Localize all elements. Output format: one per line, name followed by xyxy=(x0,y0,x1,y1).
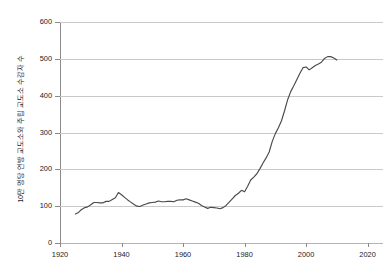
y-tick-600 xyxy=(55,22,60,23)
y-tick-label-600: 600 xyxy=(0,17,52,26)
y-tick-label-200: 200 xyxy=(0,164,52,173)
prison-incarceration-rate-chart: 10만 명당 연방 교도소와 주립 교도소 수감자 수 010020030040… xyxy=(0,0,392,280)
series-line-prison-rate xyxy=(60,22,383,243)
x-tick-1980 xyxy=(245,243,246,247)
x-tick-label-1920: 1920 xyxy=(40,250,80,259)
x-tick-label-1980: 1980 xyxy=(225,250,265,259)
x-tick-label-1960: 1960 xyxy=(163,250,203,259)
y-tick-400 xyxy=(55,96,60,97)
y-tick-label-0: 0 xyxy=(0,238,52,247)
x-tick-label-2000: 2000 xyxy=(286,250,326,259)
x-tick-1940 xyxy=(122,243,123,247)
y-tick-label-400: 400 xyxy=(0,91,52,100)
y-tick-label-500: 500 xyxy=(0,54,52,63)
x-tick-label-2020: 2020 xyxy=(348,250,388,259)
y-tick-100 xyxy=(55,206,60,207)
plot-area xyxy=(60,22,383,243)
y-tick-label-100: 100 xyxy=(0,201,52,210)
y-tick-300 xyxy=(55,133,60,134)
x-tick-1960 xyxy=(183,243,184,247)
y-tick-label-300: 300 xyxy=(0,128,52,137)
y-tick-500 xyxy=(55,59,60,60)
x-tick-2020 xyxy=(368,243,369,247)
x-tick-1920 xyxy=(60,243,61,247)
gridline-y-0 xyxy=(60,243,383,244)
x-tick-2000 xyxy=(306,243,307,247)
y-tick-200 xyxy=(55,169,60,170)
x-tick-label-1940: 1940 xyxy=(102,250,142,259)
